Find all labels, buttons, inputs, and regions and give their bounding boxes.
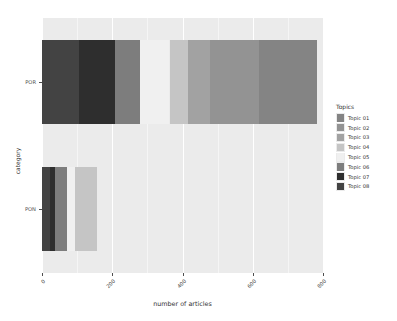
- legend-swatch-icon: [337, 134, 345, 142]
- y-axis-title: category: [14, 147, 21, 174]
- legend-item: Topic 04: [336, 142, 369, 152]
- x-axis-title: number of articles: [42, 300, 323, 308]
- bar-segment: [210, 40, 259, 124]
- legend-label: Topic 02: [348, 125, 369, 131]
- bar-segment: [55, 167, 67, 251]
- bar-segment: [170, 40, 189, 124]
- legend-swatch-icon: [337, 144, 345, 152]
- legend-label: Topic 07: [348, 174, 369, 180]
- legend: Topics Topic 01Topic 02Topic 03Topic 04T…: [336, 103, 369, 191]
- legend-key: [336, 153, 345, 162]
- legend-key: [336, 123, 345, 132]
- legend-key: [336, 133, 345, 142]
- legend-key: [336, 172, 345, 181]
- x-tick-mark: [112, 273, 113, 276]
- legend-key: [336, 113, 345, 122]
- legend-label: Topic 01: [348, 115, 369, 121]
- legend-label: Topic 04: [348, 144, 369, 150]
- bar-segment: [67, 167, 75, 251]
- legend-items: Topic 01Topic 02Topic 03Topic 04Topic 05…: [336, 113, 369, 191]
- x-tick-mark: [253, 273, 254, 276]
- bar-segment: [188, 40, 210, 124]
- bar-segment: [140, 40, 170, 124]
- bar-por: [42, 40, 323, 124]
- legend-label: Topic 03: [348, 134, 369, 140]
- bar-pon: [42, 167, 323, 251]
- legend-label: Topic 05: [348, 154, 369, 160]
- legend-swatch-icon: [337, 183, 345, 191]
- legend-swatch-icon: [337, 163, 345, 171]
- legend-swatch-icon: [337, 124, 345, 132]
- bar-segment: [42, 40, 79, 124]
- legend-title: Topics: [336, 103, 369, 110]
- x-tick-mark: [183, 273, 184, 276]
- legend-item: Topic 03: [336, 133, 369, 143]
- legend-swatch-icon: [337, 114, 345, 122]
- bar-segment: [42, 167, 50, 251]
- legend-key: [336, 162, 345, 171]
- bar-segment: [75, 167, 97, 251]
- chart-root: category PONPOR 0200400600800 number of …: [0, 0, 397, 321]
- legend-key: [336, 143, 345, 152]
- legend-item: Topic 08: [336, 182, 369, 192]
- legend-label: Topic 06: [348, 164, 369, 170]
- bar-segment: [79, 40, 115, 124]
- y-tick-label-por: POR: [0, 79, 36, 85]
- bar-segment: [259, 40, 317, 124]
- legend-item: Topic 02: [336, 123, 369, 133]
- x-tick-mark: [323, 273, 324, 276]
- legend-item: Topic 07: [336, 172, 369, 182]
- plot-panel: [42, 18, 323, 273]
- legend-key: [336, 182, 345, 191]
- legend-swatch-icon: [337, 153, 345, 161]
- bar-segment: [115, 40, 139, 124]
- legend-item: Topic 06: [336, 162, 369, 172]
- legend-item: Topic 01: [336, 113, 369, 123]
- legend-item: Topic 05: [336, 152, 369, 162]
- x-tick-mark: [42, 273, 43, 276]
- legend-label: Topic 08: [348, 183, 369, 189]
- y-tick-label-pon: PON: [0, 206, 36, 212]
- legend-swatch-icon: [337, 173, 345, 181]
